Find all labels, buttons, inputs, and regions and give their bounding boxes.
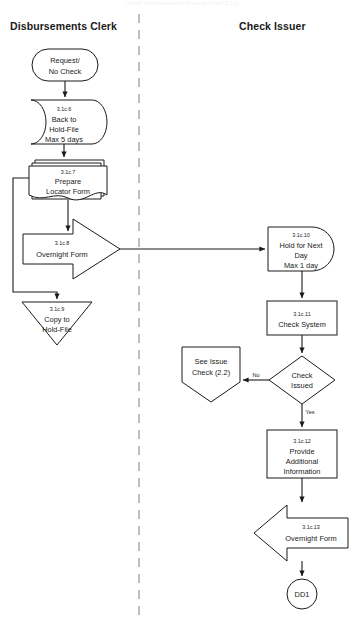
node-start-line-1: Request/ bbox=[50, 56, 81, 65]
node-3-1c-7-prepare-locator-form[interactable]: 3.1c.7 Prepare Locator Form bbox=[29, 160, 107, 200]
node-3-1c-10-number: 3.1c.10 bbox=[292, 232, 310, 238]
node-3-1c-10-hold-for-next-day[interactable]: 3.1c.10 Hold for Next Day Max 1 day bbox=[268, 227, 334, 271]
node-see-issue-check-reference[interactable]: See Issue Check (2.2) bbox=[182, 347, 240, 402]
node-3-1c-12-number: 3.1c.12 bbox=[293, 438, 311, 444]
node-offpage-line-1: See Issue bbox=[195, 357, 228, 366]
node-3-1c-13-overnight-form[interactable]: 3.1c.13 Overnight Form bbox=[254, 505, 348, 561]
node-3-1c-10-line-3: Max 1 day bbox=[284, 261, 318, 270]
node-dd1-connector[interactable]: DD1 bbox=[287, 579, 317, 609]
node-3-1c-8-number: 3.1c.8 bbox=[55, 240, 70, 246]
node-3-1c-7-number: 3.1c.7 bbox=[61, 169, 76, 175]
flowchart-canvas: Request/ No Check 3.1c.6 Back to Hold-Fi… bbox=[0, 0, 363, 630]
node-3-1c-8-line-1: Overnight Form bbox=[36, 250, 87, 259]
node-3-1c-11-line-1: Check System bbox=[278, 320, 326, 329]
node-offpage-line-2: Check (2.2) bbox=[192, 368, 230, 377]
node-decision-check-issued[interactable]: Check Issued bbox=[269, 356, 335, 404]
node-3-1c-8-overnight-form[interactable]: 3.1c.8 Overnight Form bbox=[23, 219, 120, 279]
node-3-1c-6-line-1: Back to bbox=[52, 115, 77, 124]
node-3-1c-11-number: 3.1c.11 bbox=[293, 311, 310, 317]
node-3-1c-13-line-1: Overnight Form bbox=[285, 534, 336, 543]
node-3-1c-10-line-1: Hold for Next bbox=[279, 241, 322, 250]
node-3-1c-10-line-2: Day bbox=[294, 251, 307, 260]
node-3-1c-6-number: 3.1c.6 bbox=[57, 106, 72, 112]
edge-label-no: No bbox=[252, 372, 259, 378]
node-3-1c-12-line-1: Provide bbox=[289, 447, 314, 456]
node-3-1c-6-line-2: Hold-File bbox=[49, 125, 79, 134]
node-3-1c-6-line-3: Max 5 days bbox=[45, 135, 83, 144]
node-3-1c-11-check-system[interactable]: 3.1c.11 Check System bbox=[267, 301, 337, 335]
node-3-1c-9-copy-to-hold-file[interactable]: 3.1c.9 Copy to Hold-File bbox=[22, 302, 92, 345]
node-3-1c-9-line-1: Copy to bbox=[44, 315, 69, 324]
node-3-1c-6-back-to-hold-file[interactable]: 3.1c.6 Back to Hold-File Max 5 days bbox=[31, 100, 107, 144]
node-3-1c-9-number: 3.1c.9 bbox=[50, 306, 65, 312]
node-3-1c-12-provide-additional-information[interactable]: 3.1c.12 Provide Additional Information bbox=[267, 430, 337, 478]
node-dd1-label: DD1 bbox=[295, 590, 310, 599]
node-3-1c-12-line-2: Additional bbox=[286, 457, 319, 466]
edge-label-yes: Yes bbox=[305, 409, 314, 415]
node-3-1c-9-line-2: Hold-File bbox=[42, 325, 72, 334]
node-start-request-no-check[interactable]: Request/ No Check bbox=[32, 49, 98, 81]
node-3-1c-7-line-1: Prepare bbox=[55, 177, 81, 186]
node-3-1c-13-number: 3.1c.13 bbox=[302, 524, 320, 530]
node-start-line-2: No Check bbox=[49, 67, 82, 76]
node-decision-line-2: Issued bbox=[291, 381, 313, 390]
node-decision-line-1: Check bbox=[292, 371, 313, 380]
node-3-1c-7-line-2: Locator Form bbox=[46, 187, 90, 196]
node-3-1c-12-line-3: Information bbox=[284, 467, 321, 476]
